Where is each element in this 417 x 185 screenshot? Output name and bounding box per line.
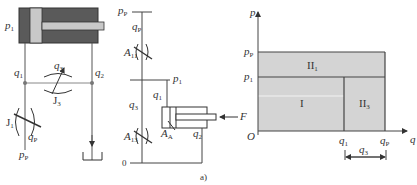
pq-graph: p q O pP p1 q1 qP II1 I II3 q3 xyxy=(243,6,416,160)
left-cylinder-piston xyxy=(30,8,42,43)
label-q1-mid: q1 xyxy=(153,88,163,102)
middle-cylinder-rod xyxy=(176,114,216,120)
label-force: F xyxy=(239,110,247,122)
label-q1-left: q1 xyxy=(14,66,24,80)
left-cylinder-rod xyxy=(42,22,104,30)
label-pp-mid: pP xyxy=(117,4,128,18)
label-p1-mid: p1 xyxy=(172,72,183,86)
label-aa: AA xyxy=(160,127,173,141)
y-tick-pp: pP xyxy=(243,45,254,59)
region-I-label: I xyxy=(300,97,304,109)
middle-circuit: pP qP A11 p1 q1 q3 AA F q2 A13 0 xyxy=(117,4,247,182)
label-pp-left: pP xyxy=(18,148,29,162)
label-q2-left: q2 xyxy=(95,66,105,80)
figure-caption: a) xyxy=(200,172,207,182)
throttle-valve-j3-icon xyxy=(44,68,72,94)
x-tick-q1: q1 xyxy=(339,134,349,148)
x-axis-label: q xyxy=(410,133,416,145)
label-p1-left: p1 xyxy=(4,19,15,33)
label-q3-left: q3 xyxy=(54,59,64,73)
y-tick-p1: p1 xyxy=(243,70,254,84)
label-zero: 0 xyxy=(122,158,127,168)
span-q3-label: q3 xyxy=(359,143,369,157)
y-axis-label: p xyxy=(249,6,256,18)
label-j3: J3 xyxy=(53,94,61,108)
label-q3-mid: q3 xyxy=(129,98,139,112)
origin-label: O xyxy=(247,130,255,142)
label-j1: J1 xyxy=(6,116,14,130)
x-tick-qp: qP xyxy=(380,134,390,148)
region-II1 xyxy=(258,52,385,77)
left-circuit: p1 q1 q2 q3 J3 J1 qP pP xyxy=(4,8,105,162)
label-qp-left: qP xyxy=(28,130,38,144)
label-qp-mid: qP xyxy=(132,20,142,34)
label-q2-mid: q2 xyxy=(193,127,203,141)
hydraulic-diagram: p1 q1 q2 q3 J3 J1 qP pP xyxy=(0,0,417,185)
